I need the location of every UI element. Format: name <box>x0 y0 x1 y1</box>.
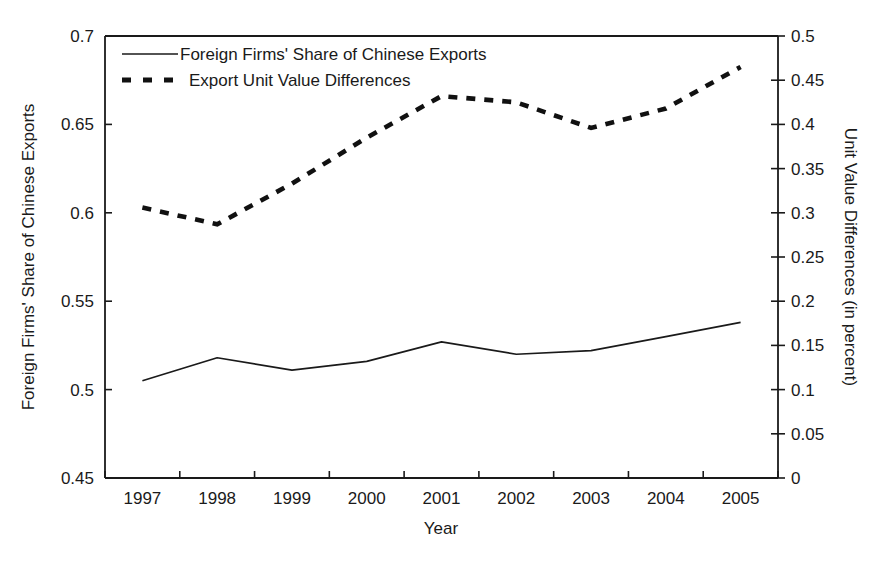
x-axis-tick-label: 2005 <box>722 489 760 508</box>
y-left-tick-label: 0.65 <box>61 115 94 134</box>
y-right-tick-label: 0.4 <box>791 115 815 134</box>
y-axis-right-title: Unit Value Differences (in percent) <box>841 128 860 386</box>
y-left-tick-label: 0.7 <box>70 27 94 46</box>
y-left-tick-label: 0.6 <box>70 204 94 223</box>
y-right-tick-label: 0.1 <box>791 381 815 400</box>
series-export-unit-value-differences <box>142 67 740 224</box>
x-axis-tick-label: 1998 <box>198 489 236 508</box>
y-left-tick-label: 0.5 <box>70 381 94 400</box>
y-right-tick-label: 0.45 <box>791 71 824 90</box>
x-axis-tick-label: 2001 <box>423 489 461 508</box>
x-axis-tick-label: 2002 <box>497 489 535 508</box>
y-right-tick-label: 0.2 <box>791 292 815 311</box>
chart-legend: Foreign Firms' Share of Chinese Exports … <box>122 45 487 90</box>
series-foreign-firms-share <box>142 322 740 380</box>
y-right-tick-label: 0.15 <box>791 336 824 355</box>
x-axis-tick-label: 2000 <box>348 489 386 508</box>
y-axis-left-title: Foreign Firms' Share of Chinese Exports <box>19 104 38 411</box>
y-right-tick-label: 0 <box>791 469 800 488</box>
chart-figure: 0.450.50.550.60.650.7 00.050.10.150.20.2… <box>0 0 871 562</box>
x-axis-title: Year <box>424 519 459 538</box>
x-axis-tick-label: 2003 <box>572 489 610 508</box>
data-series-group <box>142 67 740 381</box>
legend-label-1: Export Unit Value Differences <box>189 71 410 90</box>
y-right-tick-label: 0.35 <box>791 160 824 179</box>
chart-canvas: 0.450.50.550.60.650.7 00.050.10.150.20.2… <box>0 0 871 562</box>
x-axis-tick-label: 2004 <box>647 489 685 508</box>
y-right-tick-label: 0.25 <box>791 248 824 267</box>
y-left-tick-label: 0.55 <box>61 292 94 311</box>
x-axis-tick-label: 1997 <box>123 489 161 508</box>
x-axis-tick-label: 1999 <box>273 489 311 508</box>
legend-label-0: Foreign Firms' Share of Chinese Exports <box>180 45 487 64</box>
y-right-tick-label: 0.3 <box>791 204 815 223</box>
y-axis-right-ticks: 00.050.10.150.20.250.30.350.40.450.5 <box>771 27 824 488</box>
y-left-tick-label: 0.45 <box>61 469 94 488</box>
y-right-tick-label: 0.5 <box>791 27 815 46</box>
y-right-tick-label: 0.05 <box>791 425 824 444</box>
x-axis-ticks: 199719981999200020012002200320042005 <box>105 471 778 508</box>
